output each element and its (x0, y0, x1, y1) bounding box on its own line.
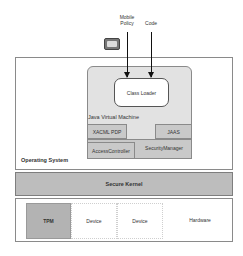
tpm-box: TPM (26, 203, 71, 239)
mobile-policy-line2: Policy (115, 20, 139, 26)
mobile-device-icon (104, 38, 120, 50)
operating-system-label: Operating System (21, 157, 81, 163)
mobile-policy-arrow (127, 32, 128, 77)
jaas-box: JAAS (155, 124, 192, 139)
class-loader-box: Class Loader (114, 78, 169, 107)
device-label-1: Device (86, 218, 101, 224)
secure-kernel-box: Secure Kernel (15, 172, 233, 196)
mobile-policy-label: Mobile Policy (115, 14, 139, 26)
xacml-pdp-label: XACML PDP (93, 129, 122, 135)
device-box-2: Device (117, 203, 163, 239)
device-label-2: Device (132, 218, 147, 224)
secure-kernel-label: Secure Kernel (106, 181, 143, 187)
tpm-label: TPM (43, 218, 54, 224)
jaas-label: JAAS (167, 129, 180, 135)
code-arrow (151, 32, 152, 77)
hardware-label: Hardware (180, 217, 220, 223)
xacml-pdp-box: XACML PDP (87, 124, 127, 139)
device-box-1: Device (71, 203, 117, 239)
access-controller-box: AccessController (87, 142, 135, 159)
security-manager-label: SecurityManager (137, 145, 191, 151)
class-loader-label: Class Loader (127, 90, 156, 96)
access-controller-label: AccessController (92, 148, 130, 154)
code-label: Code (140, 20, 162, 26)
jvm-label: Java Virtual Machine (88, 114, 158, 120)
